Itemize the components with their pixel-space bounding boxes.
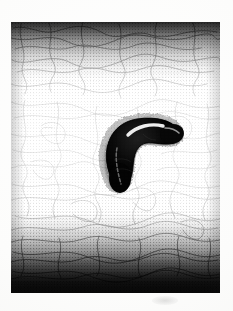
vignette-grain-overlay	[11, 22, 220, 293]
photographic-plate	[11, 22, 220, 293]
scanned-page	[0, 0, 233, 311]
sheet-smudge	[152, 296, 178, 305]
